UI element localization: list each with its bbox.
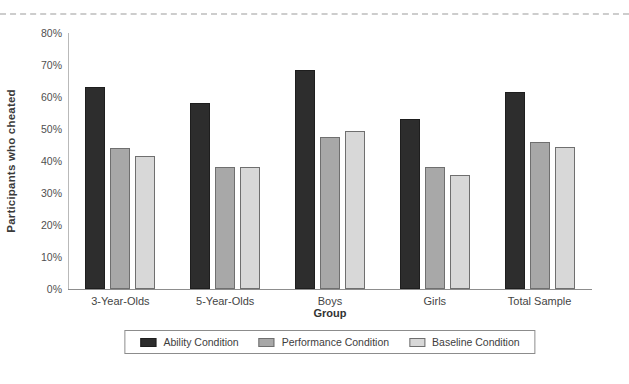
bar bbox=[215, 167, 235, 289]
legend-label: Baseline Condition bbox=[432, 336, 520, 348]
y-tick-label: 60% bbox=[22, 91, 62, 103]
bar bbox=[425, 167, 445, 289]
y-tick-label: 20% bbox=[22, 219, 62, 231]
bar bbox=[295, 70, 315, 289]
x-category-label: Boys bbox=[275, 295, 385, 307]
x-axis-title: Group bbox=[314, 307, 347, 319]
bar bbox=[505, 92, 525, 289]
x-category-label: 3-Year-Olds bbox=[65, 295, 175, 307]
y-tick-label: 80% bbox=[22, 27, 62, 39]
y-tick-label: 30% bbox=[22, 187, 62, 199]
legend: Ability ConditionPerformance ConditionBa… bbox=[124, 330, 535, 354]
x-category-label: 5-Year-Olds bbox=[170, 295, 280, 307]
y-tick-label: 40% bbox=[22, 155, 62, 167]
legend-item: Performance Condition bbox=[259, 336, 389, 348]
bar bbox=[240, 167, 260, 289]
bar bbox=[135, 156, 155, 289]
y-tick-label: 10% bbox=[22, 251, 62, 263]
x-category-label: Girls bbox=[380, 295, 490, 307]
legend-item: Ability Condition bbox=[140, 336, 238, 348]
bar bbox=[345, 131, 365, 289]
bar bbox=[85, 87, 105, 289]
y-tick-label: 0% bbox=[22, 283, 62, 295]
figure: Participants who cheated 0%10%20%30%40%5… bbox=[0, 0, 629, 384]
bar-chart: Participants who cheated 0%10%20%30%40%5… bbox=[0, 0, 629, 384]
y-tick-label: 50% bbox=[22, 123, 62, 135]
legend-swatch-icon bbox=[140, 338, 156, 347]
bar bbox=[555, 147, 575, 289]
bar bbox=[450, 175, 470, 289]
bar bbox=[190, 103, 210, 289]
legend-label: Ability Condition bbox=[163, 336, 238, 348]
bar bbox=[320, 137, 340, 289]
bar bbox=[400, 119, 420, 289]
y-axis-line bbox=[68, 33, 69, 289]
legend-swatch-icon bbox=[409, 338, 425, 347]
y-tick-label: 70% bbox=[22, 59, 62, 71]
legend-swatch-icon bbox=[259, 338, 275, 347]
bar bbox=[110, 148, 130, 289]
y-axis-title: Participants who cheated bbox=[5, 89, 17, 232]
x-category-label: Total Sample bbox=[485, 295, 595, 307]
legend-item: Baseline Condition bbox=[409, 336, 520, 348]
bar bbox=[530, 142, 550, 289]
x-axis-line bbox=[68, 289, 592, 290]
legend-label: Performance Condition bbox=[282, 336, 389, 348]
